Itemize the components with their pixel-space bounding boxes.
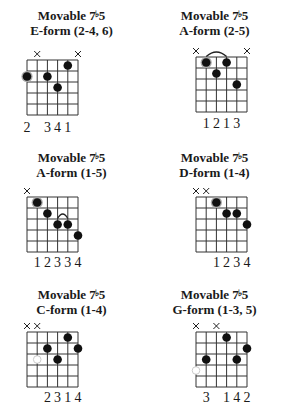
finger-dot <box>74 344 83 353</box>
chord-title-number: 5 <box>99 287 106 302</box>
chord-title: Movable 7♭5A-form (2-5) <box>143 8 286 38</box>
finger-number: 3 <box>232 256 242 270</box>
chord-title-number: 5 <box>242 287 249 302</box>
finger-number: 2 <box>42 256 52 270</box>
root-note-dot <box>33 198 42 207</box>
fretboard-grid <box>186 41 257 126</box>
flat-sign: ♭ <box>238 288 242 298</box>
finger-number: 2 <box>222 256 232 270</box>
flat-sign: ♭ <box>95 9 99 19</box>
chord-form-label: C-form (1-4) <box>0 302 143 317</box>
muted-string-icon <box>193 48 199 54</box>
finger-number: 2 <box>211 117 221 131</box>
muted-string-icon <box>34 51 40 57</box>
optional-note-circle <box>192 367 200 375</box>
finger-number: 1 <box>222 391 232 405</box>
chord-form-label: D-form (1-4) <box>143 165 286 180</box>
finger-dot <box>43 72 52 81</box>
muted-string-icon <box>75 51 81 57</box>
muted-string-icon <box>244 48 250 54</box>
finger-number: 3 <box>53 391 63 405</box>
flat-sign: ♭ <box>95 151 99 161</box>
finger-number: 2 <box>42 391 52 405</box>
fretboard-grid <box>17 44 88 129</box>
chord-form-label: E-form (2-4, 6) <box>0 23 143 38</box>
muted-string-icon <box>213 323 219 329</box>
finger-number: 4 <box>73 391 83 405</box>
chord-title: Movable 7♭5D-form (1-4) <box>143 150 286 180</box>
muted-string-icon <box>193 188 199 194</box>
finger-dot <box>74 231 83 240</box>
finger-number: 3 <box>53 256 63 270</box>
finger-dot <box>64 333 73 342</box>
muted-string-icon <box>24 323 30 329</box>
chord-title: Movable 7♭5G-form (1-3, 5) <box>143 287 286 317</box>
finger-dot <box>53 220 62 229</box>
root-note-dot <box>212 198 221 207</box>
finger-dot <box>233 209 242 218</box>
finger-number: 2 <box>242 391 252 405</box>
finger-dot <box>222 209 231 218</box>
flat-sign: ♭ <box>95 288 99 298</box>
optional-note-circle <box>33 356 41 364</box>
finger-dot <box>222 58 231 67</box>
finger-number: 1 <box>63 121 73 135</box>
finger-dot <box>233 80 242 89</box>
chord-title-text: Movable 7 <box>38 150 96 165</box>
fretboard-grid <box>17 181 88 266</box>
finger-number: 3 <box>42 121 52 135</box>
flat-sign: ♭ <box>238 9 242 19</box>
chord-form-label: A-form (1-5) <box>0 165 143 180</box>
chord-title: Movable 7♭5A-form (1-5) <box>0 150 143 180</box>
finger-number: 3 <box>201 391 211 405</box>
finger-dot <box>233 355 242 364</box>
finger-dot <box>202 355 211 364</box>
finger-dot <box>64 61 73 70</box>
chord-title-text: Movable 7 <box>38 8 96 23</box>
finger-dot <box>222 333 231 342</box>
flat-sign: ♭ <box>238 151 242 161</box>
fretboard-grid <box>186 316 257 401</box>
chord-title-number: 5 <box>99 150 106 165</box>
finger-number: 1 <box>63 391 73 405</box>
finger-number: 4 <box>232 391 242 405</box>
muted-string-icon <box>24 188 30 194</box>
finger-number: 2 <box>22 121 32 135</box>
finger-dot <box>43 344 52 353</box>
finger-dot <box>243 344 252 353</box>
finger-number: 3 <box>63 256 73 270</box>
finger-dot <box>64 220 73 229</box>
finger-dot <box>243 220 252 229</box>
root-note-dot <box>202 58 211 67</box>
finger-dot <box>53 355 62 364</box>
chord-form-label: G-form (1-3, 5) <box>143 302 286 317</box>
barre-arc <box>58 214 68 219</box>
finger-number: 1 <box>211 256 221 270</box>
finger-number: 3 <box>232 117 242 131</box>
chord-title-number: 5 <box>242 150 249 165</box>
finger-number: 1 <box>222 117 232 131</box>
chord-title-number: 5 <box>99 8 106 23</box>
chord-title-text: Movable 7 <box>181 287 239 302</box>
muted-string-icon <box>193 323 199 329</box>
chord-title-text: Movable 7 <box>38 287 96 302</box>
finger-number: 1 <box>32 256 42 270</box>
barre-arc <box>206 52 226 57</box>
fretboard-grid <box>186 181 257 266</box>
muted-string-icon <box>34 323 40 329</box>
chord-title: Movable 7♭5E-form (2-4, 6) <box>0 8 143 38</box>
finger-dot <box>43 209 52 218</box>
finger-dot <box>53 83 62 92</box>
finger-dot <box>212 69 221 78</box>
finger-number: 4 <box>53 121 63 135</box>
chord-title-number: 5 <box>242 8 249 23</box>
chord-title: Movable 7♭5C-form (1-4) <box>0 287 143 317</box>
fretboard-grid <box>17 316 88 401</box>
chord-form-label: A-form (2-5) <box>143 23 286 38</box>
finger-number: 4 <box>73 256 83 270</box>
chord-title-text: Movable 7 <box>181 8 239 23</box>
finger-number: 1 <box>201 117 211 131</box>
chord-title-text: Movable 7 <box>181 150 239 165</box>
finger-number: 4 <box>242 256 252 270</box>
root-note-dot <box>23 72 32 81</box>
